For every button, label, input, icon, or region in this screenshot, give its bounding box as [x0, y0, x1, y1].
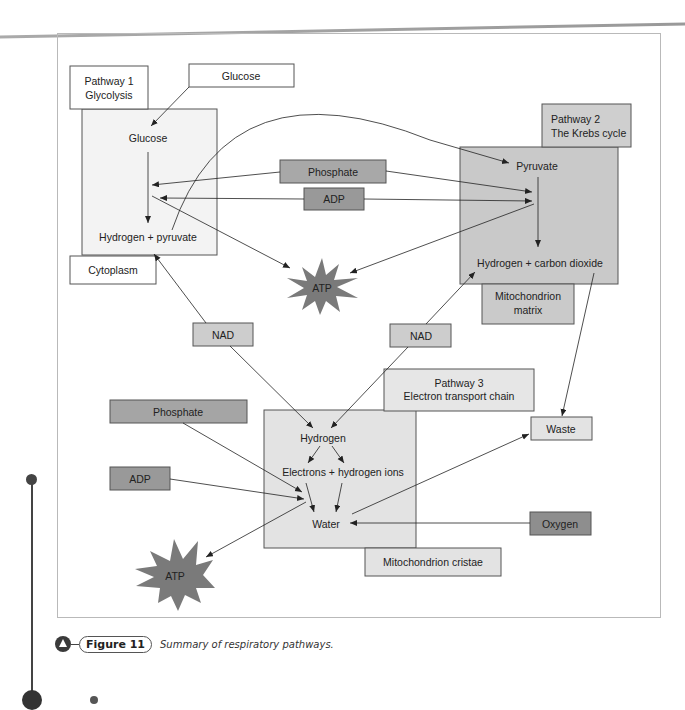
nad-left-box: NAD — [193, 323, 253, 346]
etc-water-label: Water — [312, 518, 340, 530]
phosphate-bottom-label: Phosphate — [153, 406, 203, 418]
glycolysis-end-label: Hydrogen + pyruvate — [99, 231, 197, 243]
atp-bottom-star: ATP — [135, 539, 215, 611]
margin-small-dot — [90, 696, 98, 704]
figure-number: Figure 11 — [79, 636, 152, 653]
phosphate-top-label: Phosphate — [308, 166, 358, 178]
cristae-label: Mitochondrion cristae — [383, 556, 483, 568]
nad-right-label: NAD — [410, 330, 433, 342]
pathway3-cristae-box — [264, 410, 416, 548]
adp-top-box: ADP — [304, 188, 364, 210]
glucose-input-label: Glucose — [222, 70, 261, 82]
margin-bottom-circle — [22, 690, 42, 710]
phosphate-bottom-box: Phosphate — [110, 400, 247, 423]
adp-bottom-label: ADP — [129, 473, 151, 485]
krebs-end-label: Hydrogen + carbon dioxide — [477, 257, 603, 269]
atp-top-label: ATP — [312, 282, 332, 294]
triangle-badge-icon — [55, 636, 71, 652]
etc-hydrogen-label: Hydrogen — [300, 432, 346, 444]
pathway3-title-line2: Electron transport chain — [404, 390, 515, 402]
mitochondrion-matrix-box: Mitochondrion matrix — [482, 284, 574, 324]
adp-bottom-box: ADP — [110, 467, 170, 490]
atp-bottom-label: ATP — [165, 570, 185, 582]
atp-top-star: ATP — [287, 258, 358, 315]
figure-caption-text: Summary of respiratory pathways. — [160, 639, 334, 650]
cytoplasm-label-box: Cytoplasm — [70, 256, 156, 284]
pathway1-title-box: Pathway 1 Glycolysis — [70, 66, 148, 109]
oxygen-label: Oxygen — [542, 518, 578, 530]
pathway2-title-line1: Pathway 2 — [551, 113, 600, 125]
pathway2-title-box: Pathway 2 The Krebs cycle — [542, 104, 631, 147]
glycolysis-start-label: Glucose — [129, 132, 168, 144]
nad-left-label: NAD — [212, 329, 235, 341]
mitochondrion-cristae-box: Mitochondrion cristae — [365, 548, 501, 576]
waste-label: Waste — [546, 423, 576, 435]
matrix-label-line1: Mitochondrion — [495, 290, 561, 302]
margin-line — [31, 479, 33, 701]
caption-connector — [71, 644, 79, 645]
adp-top-label: ADP — [323, 193, 345, 205]
phosphate-top-box: Phosphate — [280, 160, 386, 183]
pathway3-title-box: Pathway 3 Electron transport chain — [384, 369, 534, 411]
cytoplasm-label: Cytoplasm — [88, 264, 138, 276]
glucose-input-box: Glucose — [189, 64, 294, 87]
pathway2-title-line2: The Krebs cycle — [551, 127, 626, 139]
nad-right-box: NAD — [390, 324, 451, 347]
pathway1-title-line2: Glycolysis — [85, 89, 132, 101]
pathway3-title-line1: Pathway 3 — [434, 377, 483, 389]
pathway1-title-line1: Pathway 1 — [84, 75, 133, 87]
krebs-start-label: Pyruvate — [516, 160, 558, 172]
figure-caption: Figure 11 Summary of respiratory pathway… — [55, 634, 334, 654]
waste-box: Waste — [531, 417, 592, 440]
etc-electrons-label: Electrons + hydrogen ions — [282, 466, 404, 478]
matrix-label-line2: matrix — [514, 304, 543, 316]
oxygen-box: Oxygen — [530, 512, 591, 535]
